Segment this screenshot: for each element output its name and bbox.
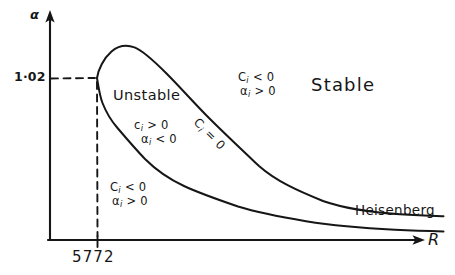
- x-axis-label: R: [428, 231, 439, 248]
- unstable-region-label: Unstable: [113, 88, 180, 104]
- lower-condition-line-1: Ci < 0: [110, 180, 146, 194]
- stable-region-label: Stable: [311, 75, 375, 94]
- reynolds-critical-dashed-line: [97, 82, 98, 236]
- y-axis-tick-label: 1·02: [14, 70, 46, 84]
- unstable-conditions: ci > 0 αi < 0: [134, 119, 177, 147]
- diagram-canvas: [0, 0, 455, 275]
- lower-stable-conditions: Ci < 0 αi > 0: [110, 181, 148, 209]
- unstable-condition-line-2: αi < 0: [134, 133, 177, 147]
- stable-conditions: Ci < 0 αi > 0: [238, 71, 276, 99]
- stable-condition-line-2: αi > 0: [238, 85, 276, 99]
- stable-condition-line-1: Ci < 0: [238, 70, 274, 84]
- stability-diagram: α R 1·02 5772 Unstable Stable ci > 0 αi …: [0, 0, 455, 275]
- unstable-condition-line-1: ci > 0: [134, 118, 169, 132]
- x-axis-tick-label: 5772: [72, 249, 115, 265]
- alpha-critical-dashed-line: [51, 78, 95, 79]
- heisenberg-label: Heisenberg: [355, 203, 435, 218]
- y-axis-label: α: [30, 8, 39, 22]
- lower-condition-line-2: αi > 0: [110, 195, 148, 209]
